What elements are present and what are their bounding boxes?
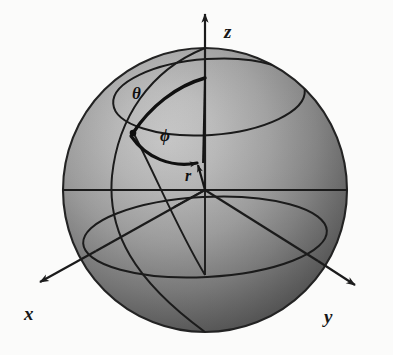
figure-canvas [0, 0, 393, 355]
y-axis-arrow[interactable] [318, 261, 355, 285]
axis-label-x: x [24, 304, 34, 323]
radius-label-r: r [185, 168, 191, 184]
angle-label-theta: θ [132, 85, 141, 102]
axis-label-y: y [324, 307, 332, 326]
axis-label-z: z [224, 22, 231, 41]
spherical-coordinates-figure: z x y θ ϕ r [0, 0, 393, 355]
surface-point-marker [130, 130, 137, 137]
angle-label-phi: ϕ [160, 127, 170, 144]
